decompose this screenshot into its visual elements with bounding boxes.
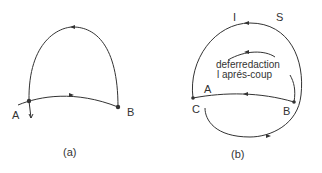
curve-a-lower [18, 96, 118, 107]
label-b: B [127, 107, 134, 118]
label-s: S [276, 12, 283, 23]
caption-a: (a) [63, 147, 76, 158]
label-a2: A [204, 84, 211, 95]
text-apres-coup: l aprés-coup [217, 70, 272, 80]
arc-b-right [290, 75, 295, 102]
circle-b-outer [192, 23, 301, 137]
caption-b: (b) [231, 149, 244, 160]
node-b2 [292, 100, 296, 104]
figure-a-graph [18, 27, 118, 118]
arrowhead-a-top [70, 25, 75, 29]
node-b [116, 105, 120, 109]
node-a [27, 99, 31, 103]
arrowhead-b-top [244, 21, 249, 25]
label-c: C [192, 104, 200, 115]
label-i: I [233, 12, 236, 23]
chord-b [193, 94, 294, 102]
diagram-canvas [0, 0, 322, 173]
arrowhead-b-chord [243, 92, 248, 96]
node-c [191, 96, 195, 100]
figure-b-graph [192, 23, 301, 137]
arrowhead-b-bottom [266, 134, 271, 138]
label-a: A [12, 110, 19, 121]
label-b2: B [283, 106, 290, 117]
